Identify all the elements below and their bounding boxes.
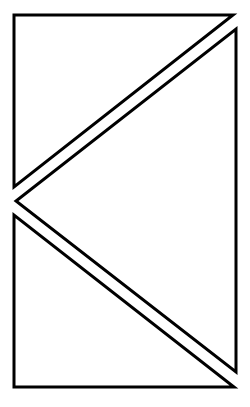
bottom-left-triangle [14, 215, 234, 387]
right-triangle [16, 29, 236, 372]
triangle-diagram [0, 0, 250, 407]
top-left-triangle [14, 15, 233, 187]
diagram-canvas [0, 0, 250, 407]
